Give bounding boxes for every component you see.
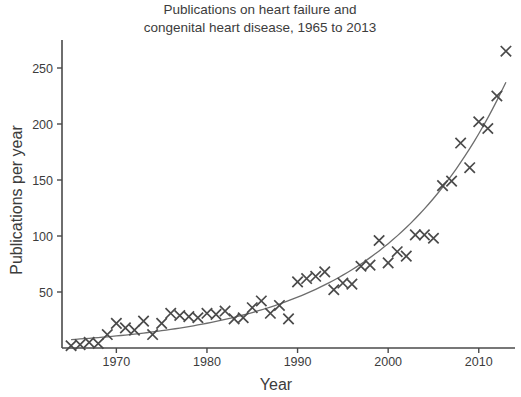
x-marker-icon xyxy=(455,138,465,148)
data-point xyxy=(156,318,166,328)
data-point xyxy=(410,230,420,240)
data-point xyxy=(220,306,230,316)
x-marker-icon xyxy=(428,233,438,243)
x-marker-icon xyxy=(265,308,275,318)
data-point xyxy=(283,314,293,324)
data-point xyxy=(102,329,112,339)
x-marker-icon xyxy=(374,235,384,245)
x-marker-icon xyxy=(147,329,157,339)
chart-title-line-2: congenital heart disease, 1965 to 2013 xyxy=(144,20,377,35)
data-point xyxy=(374,235,384,245)
x-marker-icon xyxy=(93,338,103,348)
x-marker-icon xyxy=(238,313,248,323)
y-tick-label: 50 xyxy=(39,286,53,300)
x-marker-icon xyxy=(292,277,302,287)
scatter-plot: Publications on heart failure and congen… xyxy=(0,0,521,397)
x-marker-icon xyxy=(211,309,221,319)
x-marker-icon xyxy=(501,46,511,56)
data-point xyxy=(383,258,393,268)
y-tick-label: 250 xyxy=(32,62,53,76)
data-point xyxy=(365,260,375,270)
trend-curve xyxy=(71,82,506,339)
data-point xyxy=(292,277,302,287)
x-marker-icon xyxy=(102,329,112,339)
x-tick-label: 2000 xyxy=(374,355,402,369)
data-point xyxy=(238,313,248,323)
data-point xyxy=(428,233,438,243)
data-point xyxy=(211,309,221,319)
y-tick-label: 200 xyxy=(32,118,53,132)
chart-container: Publications on heart failure and congen… xyxy=(0,0,521,397)
data-point xyxy=(465,162,475,172)
data-point xyxy=(247,302,257,312)
data-point xyxy=(256,296,266,306)
data-point xyxy=(483,123,493,133)
x-marker-icon xyxy=(365,260,375,270)
x-marker-icon xyxy=(156,318,166,328)
x-tick-label: 2010 xyxy=(465,355,493,369)
x-marker-icon xyxy=(166,308,176,318)
x-marker-icon xyxy=(220,306,230,316)
x-marker-icon xyxy=(383,258,393,268)
y-axis-label: Publications per year xyxy=(8,125,25,275)
data-point xyxy=(474,117,484,127)
data-point xyxy=(147,329,157,339)
x-marker-icon xyxy=(410,230,420,240)
x-marker-icon xyxy=(329,285,339,295)
x-marker-icon xyxy=(483,123,493,133)
y-tick-label: 150 xyxy=(32,174,53,188)
x-marker-icon xyxy=(247,302,257,312)
data-point xyxy=(265,308,275,318)
y-tick-label: 100 xyxy=(32,230,53,244)
data-point xyxy=(501,46,511,56)
data-point xyxy=(166,308,176,318)
x-tick-label: 1970 xyxy=(102,355,130,369)
x-marker-icon xyxy=(465,162,475,172)
data-point xyxy=(93,338,103,348)
data-point xyxy=(329,285,339,295)
data-point xyxy=(455,138,465,148)
data-point xyxy=(138,316,148,326)
x-marker-icon xyxy=(419,230,429,240)
data-point xyxy=(301,273,311,283)
x-marker-icon xyxy=(138,316,148,326)
x-marker-icon xyxy=(283,314,293,324)
x-marker-icon xyxy=(256,296,266,306)
x-axis-label: Year xyxy=(260,376,293,393)
y-axis-ticks: 50100150200250 xyxy=(32,62,62,300)
x-marker-icon xyxy=(347,279,357,289)
data-point-markers xyxy=(66,46,511,351)
x-marker-icon xyxy=(301,273,311,283)
x-tick-label: 1990 xyxy=(284,355,312,369)
x-tick-label: 1980 xyxy=(193,355,221,369)
x-axis-ticks: 19701980199020002010 xyxy=(102,348,492,369)
x-marker-icon xyxy=(474,117,484,127)
data-point xyxy=(347,279,357,289)
data-point xyxy=(419,230,429,240)
chart-title-line-1: Publications on heart failure and xyxy=(164,2,357,17)
